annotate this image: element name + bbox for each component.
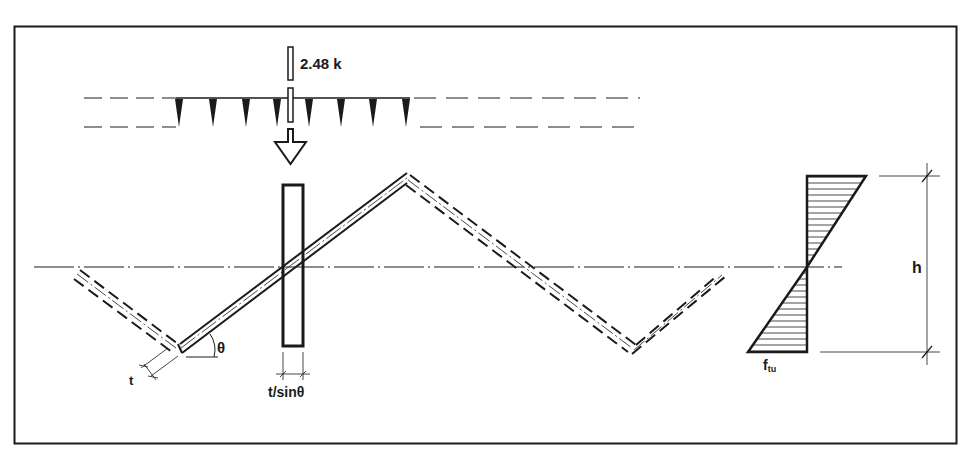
rib-icon — [209, 99, 217, 127]
effective-width-rect — [283, 185, 303, 346]
rib-icon — [337, 99, 345, 127]
rib-icon — [242, 99, 250, 127]
angle-label: θ — [217, 339, 225, 356]
folded-plate-diagram: 2.48 k θ t — [0, 0, 973, 458]
compression-zone — [807, 176, 866, 267]
rib-icon — [402, 99, 410, 127]
thickness-label: t — [129, 373, 134, 388]
load-label: 2.48 k — [300, 55, 342, 72]
rib-icon — [305, 99, 313, 127]
rib-icon — [369, 99, 377, 127]
stress-diagram — [748, 176, 866, 352]
load-bar-icon — [288, 47, 293, 80]
rib-icon — [273, 99, 281, 127]
depth-label: h — [912, 259, 922, 276]
folded-plate — [74, 173, 726, 354]
plate-strip — [84, 98, 640, 127]
arrow-down-icon — [275, 129, 306, 164]
effective-width-label: t/sinθ — [268, 384, 304, 400]
load-bar-icon — [288, 88, 293, 122]
effective-width-dimension — [276, 352, 310, 380]
thickness-dimension — [139, 348, 178, 380]
tension-zone — [748, 267, 807, 352]
rib-icon — [175, 99, 183, 127]
stress-label: ftu — [763, 357, 776, 374]
